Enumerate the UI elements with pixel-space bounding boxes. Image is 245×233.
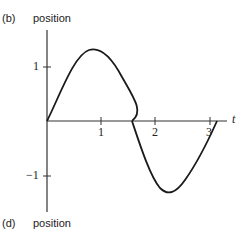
x-tick-label-3: 3 [206,125,212,140]
chart-plot [0,0,245,233]
y-axis-label-bottom: position [33,217,71,229]
x-tick-label-1: 1 [98,125,104,140]
y-tick-label-neg1: −1 [26,168,39,183]
panel-label-d: (d) [2,217,15,229]
x-tick-label-2: 2 [152,125,158,140]
x-axis-label: t [232,112,235,127]
y-tick-label-1: 1 [33,59,39,74]
